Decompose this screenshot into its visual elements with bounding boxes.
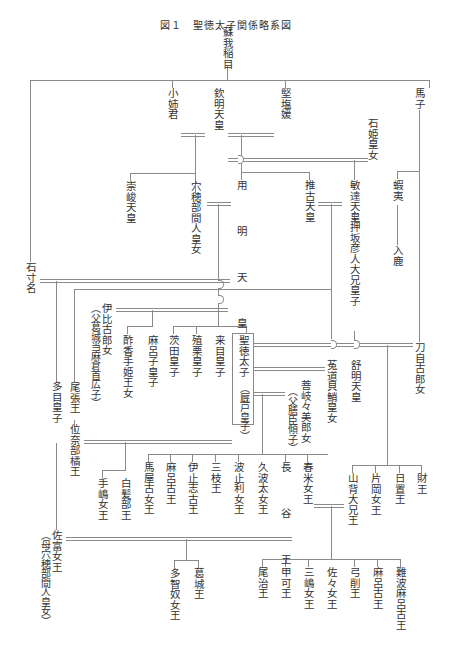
line bbox=[354, 559, 355, 567]
line bbox=[419, 110, 420, 342]
person-mieda: 三枝王 bbox=[209, 462, 221, 494]
person-tachinu: 多智奴女王 bbox=[168, 568, 180, 621]
person-shotoku: 聖徳太子 bbox=[237, 335, 249, 377]
person-oji: 尾治王 bbox=[256, 567, 268, 599]
person-ekuri: 殖栗皇子 bbox=[190, 335, 202, 377]
person-ihiko-note: （父葛城当麻倉首広子） bbox=[88, 303, 100, 408]
person-kashiwade-note: （父膳臣傾子） bbox=[285, 386, 297, 453]
person-sukate: 酢香手姫王女 bbox=[121, 335, 133, 398]
line bbox=[74, 289, 332, 290]
person-owari: 尾張王 bbox=[68, 382, 80, 414]
marriage-line bbox=[40, 279, 230, 283]
line bbox=[186, 539, 187, 560]
line bbox=[241, 172, 309, 173]
line bbox=[352, 465, 353, 473]
line bbox=[102, 470, 103, 478]
line bbox=[397, 171, 398, 179]
marriage-line bbox=[253, 367, 325, 371]
line bbox=[148, 454, 149, 462]
line bbox=[130, 173, 131, 181]
line-crossing bbox=[238, 155, 244, 164]
person-shiraka: 白髪部王 bbox=[119, 478, 131, 520]
person-ohoe: 小姉君 bbox=[166, 88, 178, 120]
line bbox=[262, 394, 263, 454]
line bbox=[331, 204, 332, 339]
person-takara: 財王 bbox=[415, 473, 427, 494]
line bbox=[172, 80, 173, 88]
line bbox=[352, 465, 421, 466]
person-kuhata: 久波太女王 bbox=[256, 462, 268, 515]
person-tojiko: 刀自古郎女 bbox=[413, 342, 425, 395]
person-suiko: 推古天皇 bbox=[303, 180, 315, 222]
person-katsuragi: 葛城王 bbox=[192, 568, 204, 600]
person-kinmei: 欽明天皇 bbox=[212, 88, 224, 130]
marriage-line bbox=[253, 392, 285, 396]
person-uji: 菟道貝鮹皇女 bbox=[325, 360, 337, 423]
person-umaroko: 茨田皇子 bbox=[167, 335, 179, 377]
line bbox=[377, 559, 378, 567]
person-emishi: 蝦夷 bbox=[391, 180, 403, 201]
person-satomi: 佐富女王 bbox=[50, 530, 62, 572]
line bbox=[387, 345, 388, 465]
person-soga-iname: 蘇我稲目 bbox=[221, 27, 233, 69]
marriage-line bbox=[318, 202, 342, 206]
person-naniwa: 難波麻呂古王 bbox=[394, 567, 406, 630]
line bbox=[397, 171, 420, 172]
line bbox=[127, 326, 128, 334]
line-crossing bbox=[354, 340, 360, 349]
person-kitashihime: 堅塩媛 bbox=[279, 88, 291, 120]
person-bidatsu: 敏達天皇 bbox=[348, 180, 360, 222]
line-crossing bbox=[331, 340, 337, 349]
person-sasa: 佐々女王 bbox=[325, 567, 337, 609]
line bbox=[262, 559, 263, 567]
line bbox=[354, 160, 355, 180]
person-mishima: 三嶋女王 bbox=[302, 567, 314, 609]
line bbox=[241, 172, 242, 180]
line bbox=[125, 442, 126, 470]
person-teshima: 手嶋女王 bbox=[96, 478, 108, 520]
line bbox=[375, 465, 376, 473]
person-maroko: 麻呂子皇子 bbox=[146, 335, 158, 388]
line bbox=[102, 470, 126, 471]
person-shotoku-alt: （厩戸皇子） bbox=[237, 383, 249, 440]
line bbox=[331, 506, 332, 559]
line bbox=[429, 80, 430, 88]
line bbox=[309, 172, 310, 180]
line bbox=[241, 135, 242, 172]
line bbox=[152, 310, 153, 326]
person-okitama: 日置王 bbox=[393, 473, 405, 505]
person-kume: 来目皇子 bbox=[213, 335, 225, 377]
person-jomei: 舒明天皇 bbox=[349, 360, 361, 402]
person-kafuka: 甲可王 bbox=[279, 567, 291, 599]
person-umaya: 馬屋古女王 bbox=[142, 462, 154, 515]
person-satomi-note: （母穴穂部間人皇女） bbox=[38, 530, 50, 625]
line-crossing bbox=[218, 295, 224, 304]
line bbox=[215, 454, 216, 462]
person-kataoka: 片岡女王 bbox=[369, 473, 381, 515]
line bbox=[192, 454, 193, 462]
person-maroko2: 麻呂古王 bbox=[164, 462, 176, 504]
person-yuge: 弓削王 bbox=[348, 567, 360, 599]
person-haruyone: 春米女王 bbox=[301, 462, 313, 504]
person-oshisaka: 押坂彦人大兄皇子 bbox=[348, 222, 360, 306]
person-yomei: 用 明 天 皇 bbox=[235, 180, 247, 341]
marriage-line bbox=[116, 308, 228, 312]
line bbox=[285, 80, 286, 88]
person-yamashiro: 山背大兄王 bbox=[346, 473, 358, 526]
line bbox=[56, 281, 57, 381]
line bbox=[56, 443, 57, 530]
line bbox=[399, 465, 400, 473]
person-hatsuse: 長 谷 王 bbox=[279, 462, 291, 577]
line bbox=[285, 454, 286, 462]
line bbox=[170, 454, 171, 462]
person-ishiko: 伊止志古王 bbox=[186, 462, 198, 515]
line bbox=[421, 465, 422, 473]
marriage-line bbox=[181, 133, 205, 137]
marriage-line bbox=[207, 202, 231, 206]
line bbox=[196, 326, 197, 334]
person-anahobe: 穴穂部間人皇女 bbox=[189, 181, 201, 255]
line bbox=[174, 560, 175, 568]
person-umako: 馬子 bbox=[413, 88, 425, 109]
person-iruka: 入鹿 bbox=[391, 245, 403, 266]
person-inabe: 位奈部橘王 bbox=[68, 424, 80, 477]
